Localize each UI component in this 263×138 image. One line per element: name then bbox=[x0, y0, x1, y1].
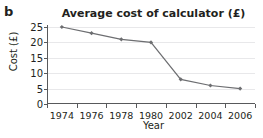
x-tick-mark bbox=[106, 104, 107, 108]
x-tick-mark bbox=[196, 104, 197, 108]
series-line bbox=[62, 27, 240, 89]
y-tick-label: 5 bbox=[37, 83, 43, 94]
figure: b Average cost of calculator (£) Cost (£… bbox=[0, 0, 263, 138]
y-tick-label: 0 bbox=[37, 99, 43, 110]
data-point-marker bbox=[89, 31, 93, 35]
data-series-line bbox=[47, 27, 255, 104]
y-tick-label: 20 bbox=[30, 37, 43, 48]
x-tick-mark bbox=[255, 104, 256, 108]
x-tick-mark bbox=[77, 104, 78, 108]
y-tick-label: 10 bbox=[30, 68, 43, 79]
y-axis-label: Cost (£) bbox=[8, 26, 19, 78]
y-tick-label: 25 bbox=[30, 22, 43, 33]
x-axis-label: Year bbox=[44, 120, 263, 131]
x-tick-mark bbox=[136, 104, 137, 108]
plot-area: 0510152025 1974197619781980200220042006 bbox=[47, 27, 255, 104]
chart-title: Average cost of calculator (£) bbox=[44, 7, 263, 20]
data-point-marker bbox=[119, 37, 123, 41]
x-tick-mark bbox=[47, 104, 48, 108]
part-label: b bbox=[4, 4, 13, 19]
data-point-marker bbox=[208, 83, 212, 87]
x-tick-mark bbox=[225, 104, 226, 108]
data-point-marker bbox=[238, 87, 242, 91]
data-point-marker bbox=[60, 25, 64, 29]
x-tick-mark bbox=[166, 104, 167, 108]
y-tick-label: 15 bbox=[30, 52, 43, 63]
